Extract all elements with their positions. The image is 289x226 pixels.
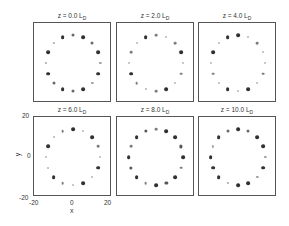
data-point (236, 127, 240, 131)
data-point (226, 87, 230, 91)
data-point (90, 135, 94, 139)
data-point (211, 166, 215, 170)
data-point (210, 62, 212, 64)
data-point (226, 35, 230, 39)
data-point (155, 90, 158, 93)
data-point (264, 156, 266, 158)
data-point (181, 155, 185, 159)
x-axis-label: x (70, 207, 74, 214)
data-point (135, 135, 139, 139)
data-point (236, 183, 240, 187)
data-point (144, 181, 147, 184)
y-axis-label: y (14, 153, 21, 157)
scatter-panel (198, 22, 276, 102)
data-point (91, 42, 94, 45)
scatter-panel (33, 22, 111, 102)
panel-title: z = 10.0 LD (197, 106, 277, 115)
panel-title: z = 0.0 LD (32, 12, 112, 21)
data-point (52, 175, 56, 179)
data-point (165, 129, 169, 133)
data-point (61, 130, 64, 133)
panel-title: z = 4.0 LD (197, 12, 277, 21)
scatter-panel (116, 116, 194, 196)
data-point (45, 62, 47, 64)
data-point (211, 72, 214, 75)
data-point (144, 35, 148, 39)
data-point (179, 50, 183, 54)
data-point (135, 81, 138, 84)
data-point (261, 166, 265, 170)
data-point (165, 181, 168, 184)
data-point (91, 176, 93, 178)
scatter-panel (33, 116, 111, 196)
data-point (96, 166, 100, 170)
data-point (82, 181, 86, 185)
x-tick-right: 20 (104, 199, 111, 206)
data-point (144, 130, 147, 133)
data-point (217, 135, 221, 139)
data-point (82, 35, 86, 39)
data-point (256, 176, 258, 178)
x-tick-left: -20 (29, 199, 38, 206)
data-point (237, 90, 239, 92)
data-point (82, 87, 86, 91)
data-point (135, 175, 139, 179)
data-point (129, 72, 133, 76)
data-point (82, 130, 84, 132)
data-point (52, 81, 55, 84)
data-point (136, 42, 138, 44)
data-point (129, 51, 132, 54)
data-point (129, 166, 132, 169)
data-point (180, 72, 183, 75)
data-point (173, 135, 177, 139)
data-point (45, 156, 47, 158)
data-point (255, 135, 259, 139)
data-point (247, 181, 251, 185)
data-point (72, 184, 74, 186)
data-point (209, 155, 213, 159)
data-point (173, 175, 177, 179)
data-point (236, 33, 240, 37)
data-point (96, 50, 100, 54)
data-point (47, 167, 49, 169)
panel-title: z = 6.0 LD (32, 106, 112, 115)
data-point (247, 87, 251, 91)
data-point (218, 82, 220, 84)
panel-title: z = 2.0 LD (115, 12, 195, 21)
data-point (182, 62, 184, 64)
data-point (256, 42, 259, 45)
data-point (247, 36, 249, 38)
data-point (99, 62, 101, 64)
data-point (71, 127, 75, 131)
data-point (128, 62, 130, 64)
data-point (61, 181, 64, 184)
data-point (91, 82, 93, 84)
data-point (53, 42, 55, 44)
data-point (61, 87, 65, 91)
panel-title: z = 8.0 LD (115, 106, 195, 115)
data-point (180, 145, 183, 148)
data-point (61, 35, 65, 39)
data-point (46, 50, 50, 54)
data-point (97, 145, 100, 148)
scatter-panel (116, 22, 194, 102)
data-point (155, 128, 158, 131)
data-point (217, 175, 221, 179)
data-point (218, 42, 220, 44)
data-point (155, 34, 158, 37)
data-point (226, 130, 229, 133)
data-point (96, 72, 100, 76)
data-point (99, 156, 101, 158)
data-point (46, 144, 50, 148)
data-point (264, 62, 266, 64)
data-point (72, 34, 75, 37)
y-tick-top: 20 (22, 112, 29, 119)
data-point (46, 72, 50, 76)
data-point (262, 72, 265, 75)
data-point (261, 144, 265, 148)
data-point (129, 145, 132, 148)
data-point (127, 155, 131, 159)
data-point (211, 50, 215, 54)
data-point (165, 87, 169, 91)
scatter-panel (198, 116, 276, 196)
